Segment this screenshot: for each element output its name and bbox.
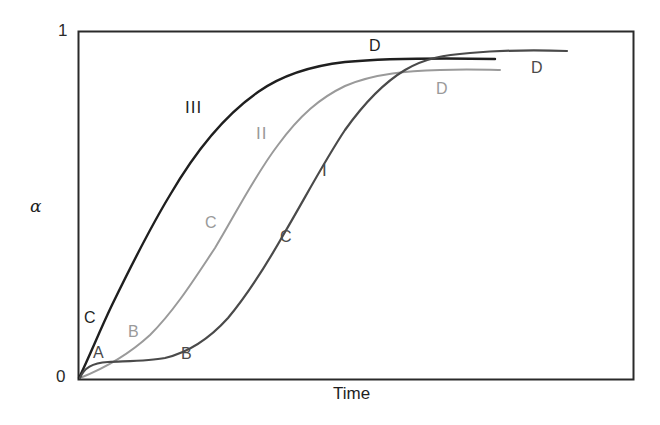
- stage-label-I-C: C: [280, 229, 292, 245]
- stage-label-A: A: [93, 345, 104, 361]
- label-curve-II: II: [256, 126, 267, 142]
- stage-label-II-B: B: [128, 324, 139, 340]
- chart-canvas: [0, 0, 660, 425]
- stage-label-II-C: C: [205, 215, 217, 231]
- plot-frame: [79, 32, 634, 380]
- stage-label-I-D: D: [531, 60, 543, 76]
- curve-III: [79, 58, 495, 378]
- stage-label-III-D: D: [369, 38, 381, 54]
- label-curve-III: III: [185, 100, 202, 116]
- y-axis-label: α: [30, 198, 41, 214]
- y-tick-top: 1: [58, 23, 67, 39]
- label-curve-I: I: [322, 163, 327, 179]
- stage-label-I-B: B: [181, 346, 192, 362]
- origin-tick: 0: [56, 369, 65, 385]
- stage-label-II-D: D: [436, 81, 448, 97]
- stage-label-III-C: C: [84, 310, 96, 326]
- x-axis-label: Time: [333, 386, 370, 402]
